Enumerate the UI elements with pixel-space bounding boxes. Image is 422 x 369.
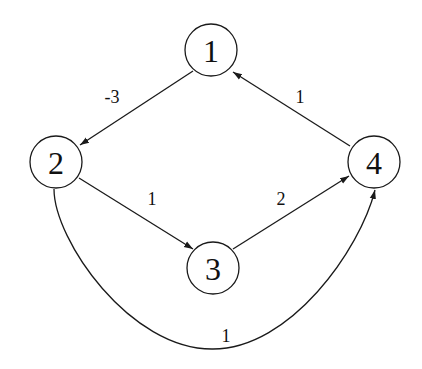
edge-weight-label: -3 bbox=[105, 87, 120, 107]
node-label: 4 bbox=[366, 145, 382, 181]
edge-weight-label: 2 bbox=[277, 189, 286, 209]
edge-line bbox=[79, 178, 193, 249]
node-1: 1 bbox=[185, 24, 237, 76]
edge-weight-label: 1 bbox=[296, 87, 305, 107]
edge-line bbox=[233, 176, 349, 249]
node-label: 2 bbox=[48, 145, 64, 181]
edge-4-to-1: 1 bbox=[233, 72, 350, 146]
edge-weight-label: 1 bbox=[148, 189, 157, 209]
node-label: 3 bbox=[205, 251, 221, 287]
edge-3-to-4: 2 bbox=[233, 176, 349, 249]
graph-diagram: -3 1 2 1 1 1 2 3 4 bbox=[0, 0, 422, 369]
node-2: 2 bbox=[30, 136, 82, 188]
edge-1-to-2: -3 bbox=[80, 71, 193, 145]
edge-2-to-3: 1 bbox=[79, 178, 193, 249]
edge-weight-label: 1 bbox=[222, 326, 231, 346]
edge-line bbox=[80, 71, 193, 145]
edge-line bbox=[233, 72, 350, 146]
node-3: 3 bbox=[187, 242, 239, 294]
node-4: 4 bbox=[348, 136, 400, 188]
node-label: 1 bbox=[203, 33, 219, 69]
